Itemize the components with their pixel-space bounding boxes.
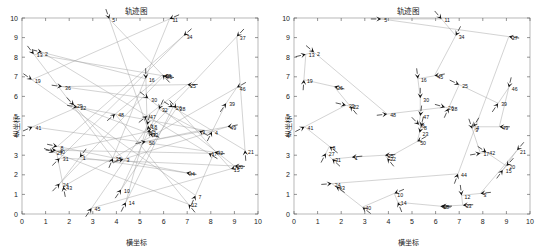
node-label: 3 xyxy=(483,192,486,198)
node-label: 1 xyxy=(83,155,86,161)
node-label: 46 xyxy=(512,86,518,92)
node-label: 34 xyxy=(187,34,193,40)
node-label: 7 xyxy=(198,194,201,200)
svg-text:3: 3 xyxy=(363,218,367,225)
node-label: 45 xyxy=(437,74,443,80)
node-label: 36 xyxy=(65,85,71,91)
node-label: 14 xyxy=(401,200,407,206)
svg-text:2: 2 xyxy=(67,218,71,225)
node-label: 27 xyxy=(329,151,335,157)
node-label: 12 xyxy=(191,202,197,208)
node-label: 16 xyxy=(421,77,427,83)
node-label: 50 xyxy=(149,140,155,146)
node-label: 47 xyxy=(150,114,156,120)
y-axis-label-right: 纵坐标 xyxy=(283,96,293,156)
svg-text:1: 1 xyxy=(286,191,290,198)
svg-text:4: 4 xyxy=(114,218,118,225)
node-label: 21 xyxy=(248,149,254,155)
node-label: 11 xyxy=(445,17,450,23)
node-label: 4 xyxy=(476,125,479,131)
node-label: 14 xyxy=(129,200,135,206)
figure-canvas: 轨迹图 012345678910012345678910511343721319… xyxy=(0,0,544,251)
node-label: 32 xyxy=(390,156,396,162)
node-label: 31 xyxy=(335,157,341,163)
svg-text:7: 7 xyxy=(185,218,189,225)
svg-text:8: 8 xyxy=(14,54,18,61)
node-label: 5 xyxy=(384,17,387,23)
svg-text:8: 8 xyxy=(286,54,290,61)
node-label: 41 xyxy=(36,125,42,131)
svg-text:0: 0 xyxy=(14,211,18,218)
svg-text:7: 7 xyxy=(286,73,290,80)
svg-text:10: 10 xyxy=(254,218,262,225)
svg-text:10: 10 xyxy=(526,218,534,225)
svg-text:8: 8 xyxy=(209,218,213,225)
svg-text:8: 8 xyxy=(481,218,485,225)
node-label: 48 xyxy=(390,112,396,118)
node-label: 42 xyxy=(217,150,223,156)
x-axis-label-left: 横坐标 xyxy=(0,237,272,247)
svg-text:9: 9 xyxy=(504,218,508,225)
node-label: 2 xyxy=(317,51,320,57)
svg-text:6: 6 xyxy=(434,218,438,225)
node-label: 12 xyxy=(465,194,471,200)
node-label: 45 xyxy=(95,206,101,212)
node-label: 39 xyxy=(501,101,507,107)
svg-text:1: 1 xyxy=(14,191,18,198)
node-label: 40 xyxy=(59,149,65,155)
node-label: 37 xyxy=(240,35,246,41)
svg-text:5: 5 xyxy=(410,218,414,225)
node-label: 46 xyxy=(240,86,246,92)
svg-text:3: 3 xyxy=(91,218,95,225)
node-label: 23 xyxy=(423,131,429,137)
svg-text:2: 2 xyxy=(14,171,18,178)
node-label: 3 xyxy=(126,157,129,163)
svg-text:0: 0 xyxy=(292,218,296,225)
node-label: 22 xyxy=(80,105,86,111)
node-label: 44 xyxy=(189,171,195,177)
node-label: 43 xyxy=(66,185,72,191)
node-label: 28 xyxy=(180,106,186,112)
svg-text:4: 4 xyxy=(386,218,390,225)
node-label: 1 xyxy=(355,155,358,161)
node-label: 2 xyxy=(45,51,48,57)
svg-text:7: 7 xyxy=(14,73,18,80)
node-label: 11 xyxy=(173,17,178,23)
svg-text:10: 10 xyxy=(282,15,290,22)
node-label: 10 xyxy=(397,192,403,198)
node-label: 8 xyxy=(332,145,335,151)
x-axis-label-right: 横坐标 xyxy=(272,237,544,247)
svg-text:1: 1 xyxy=(44,218,48,225)
node-label: 49 xyxy=(502,125,508,131)
node-label: 19 xyxy=(35,78,41,84)
node-label: 9 xyxy=(202,129,205,135)
svg-text:6: 6 xyxy=(162,218,166,225)
node-label: 13 xyxy=(309,52,315,58)
svg-text:2: 2 xyxy=(286,171,290,178)
node-label: 49 xyxy=(230,125,236,131)
plot-panel-right: 轨迹图 012345678910012345678910511343721319… xyxy=(272,0,544,251)
node-label: 33 xyxy=(466,203,472,209)
svg-text:5: 5 xyxy=(138,218,142,225)
node-label: 43 xyxy=(339,185,345,191)
y-axis-label-left: 纵坐标 xyxy=(11,96,21,156)
node-label: 25 xyxy=(190,83,196,89)
node-label: 37 xyxy=(512,35,518,41)
node-label: 50 xyxy=(420,140,426,146)
node-label: 13 xyxy=(37,52,43,58)
node-label: 19 xyxy=(307,78,313,84)
node-label: 22 xyxy=(353,104,359,110)
node-label: 39 xyxy=(229,101,235,107)
node-label: 10 xyxy=(124,188,130,194)
node-label: 30 xyxy=(151,97,157,103)
node-label: 5 xyxy=(112,17,115,23)
node-label: 28 xyxy=(452,106,458,112)
axes-left: 0123456789100123456789105113437213193625… xyxy=(0,0,272,251)
svg-text:2: 2 xyxy=(339,218,343,225)
node-label: 4 xyxy=(215,130,218,136)
svg-text:10: 10 xyxy=(10,15,18,22)
node-label: 30 xyxy=(423,97,429,103)
node-label: 25 xyxy=(462,83,468,89)
svg-text:0: 0 xyxy=(20,218,24,225)
node-label: 33 xyxy=(152,132,158,138)
